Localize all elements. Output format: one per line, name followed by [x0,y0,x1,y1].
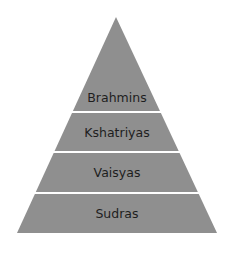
tier-label-brahmins: Brahmins [0,90,234,105]
separator [0,151,234,153]
tier-label-sudras: Sudras [0,206,234,221]
tier-label-kshatriyas: Kshatriyas [0,125,234,140]
tier-label-vaisyas: Vaisyas [0,165,234,180]
separator [0,192,234,194]
caste-pyramid-diagram: Brahmins Kshatriyas Vaisyas Sudras [0,0,234,259]
separator [0,111,234,113]
